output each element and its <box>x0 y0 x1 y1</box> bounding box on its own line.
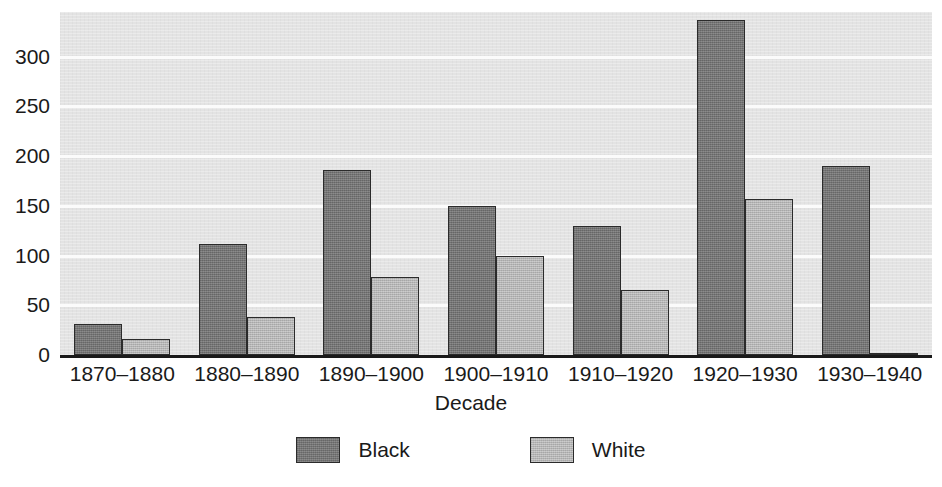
legend-label-white: White <box>592 438 646 462</box>
bar-white-1910-1920 <box>621 290 669 355</box>
bar-white-1870-1880 <box>122 339 170 355</box>
y-tick-label-50: 50 <box>0 294 50 315</box>
y-tick-label-250: 250 <box>0 95 50 116</box>
gridline-200 <box>60 155 932 158</box>
bar-white-1920-1930 <box>745 199 793 355</box>
bar-white-1890-1900 <box>371 277 419 355</box>
legend-item-white: White <box>530 437 646 463</box>
bar-black-1930-1940 <box>822 166 870 355</box>
x-tick-label-2: 1890–1900 <box>309 361 434 387</box>
bar-black-1890-1900 <box>323 170 371 355</box>
bar-white-1900-1910 <box>496 256 544 355</box>
bar-chart: 050100150200250300 1870–18801880–1890189… <box>0 0 942 487</box>
bar-black-1900-1910 <box>448 206 496 355</box>
x-axis-line <box>60 355 932 358</box>
legend-item-black: Black <box>296 437 409 463</box>
plot-area <box>60 12 932 355</box>
x-tick-label-5: 1920–1930 <box>683 361 808 387</box>
y-tick-label-150: 150 <box>0 195 50 216</box>
bar-white-1880-1890 <box>247 317 295 355</box>
bar-black-1870-1880 <box>74 324 122 355</box>
y-tick-label-100: 100 <box>0 245 50 266</box>
gridline-150 <box>60 205 932 208</box>
legend-swatch-white <box>530 437 574 463</box>
x-tick-label-0: 1870–1880 <box>60 361 185 387</box>
y-tick-label-200: 200 <box>0 145 50 166</box>
legend-swatch-black <box>296 437 340 463</box>
bar-black-1910-1920 <box>573 226 621 355</box>
legend: BlackWhite <box>0 437 942 463</box>
legend-label-black: Black <box>358 438 409 462</box>
bar-black-1920-1930 <box>697 20 745 355</box>
y-tick-label-300: 300 <box>0 46 50 67</box>
x-tick-label-1: 1880–1890 <box>185 361 310 387</box>
x-tick-label-6: 1930–1940 <box>807 361 932 387</box>
x-axis-title: Decade <box>0 391 942 415</box>
y-tick-label-0: 0 <box>0 344 50 365</box>
x-tick-label-4: 1910–1920 <box>558 361 683 387</box>
bar-black-1880-1890 <box>199 244 247 355</box>
x-tick-label-3: 1900–1910 <box>434 361 559 387</box>
gridline-300 <box>60 56 932 59</box>
gridline-250 <box>60 105 932 108</box>
